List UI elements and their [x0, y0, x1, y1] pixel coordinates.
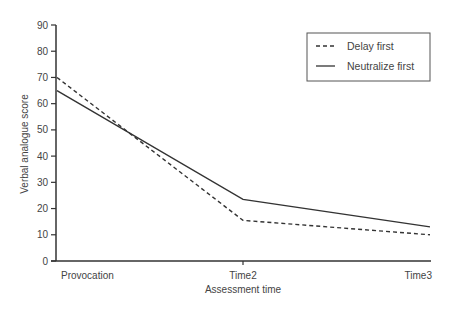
- legend-label-delay-first: Delay first: [347, 40, 394, 52]
- y-tick-label-20: 20: [37, 203, 49, 214]
- x-axis-ticks: ProvocationTime2Time3: [61, 261, 432, 281]
- y-tick-label-10: 10: [37, 229, 49, 240]
- x-tick-label-time2: Time2: [229, 270, 257, 281]
- x-tick-label-provocation: Provocation: [61, 270, 114, 281]
- series-line-delay-first: [57, 77, 430, 234]
- y-tick-label-80: 80: [37, 46, 49, 57]
- legend-label-neutralize-first: Neutralize first: [347, 60, 414, 72]
- legend: Delay first Neutralize first: [307, 33, 430, 81]
- series-line-neutralize-first: [57, 91, 430, 227]
- x-axis-title: Assessment time: [205, 284, 282, 295]
- y-axis-title: Verbal analogue score: [19, 94, 30, 194]
- line-chart: 0102030405060708090 ProvocationTime2Time…: [0, 0, 450, 311]
- y-tick-label-30: 30: [37, 177, 49, 188]
- y-tick-label-40: 40: [37, 151, 49, 162]
- series-lines: [57, 77, 430, 234]
- y-tick-label-60: 60: [37, 98, 49, 109]
- y-tick-label-0: 0: [42, 256, 48, 267]
- y-tick-label-90: 90: [37, 20, 49, 31]
- x-tick-label-time3: Time3: [405, 270, 433, 281]
- y-tick-label-50: 50: [37, 124, 49, 135]
- y-tick-label-70: 70: [37, 72, 49, 83]
- y-axis-ticks: 0102030405060708090: [37, 20, 56, 267]
